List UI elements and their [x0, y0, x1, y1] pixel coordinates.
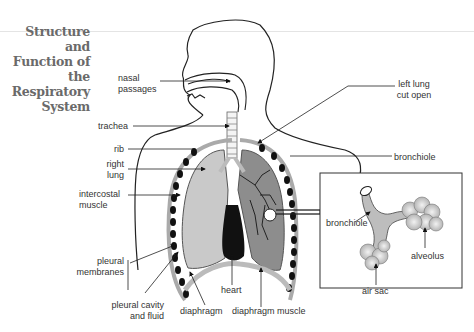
label-diaphragm: diaphragm: [180, 306, 223, 317]
trachea-drawing: [227, 112, 237, 158]
inset-label-bronchiole: bronchiole: [326, 218, 368, 229]
label-rib: rib: [100, 144, 124, 155]
label-nasal-passages: nasal passages: [118, 73, 157, 95]
nasal-passages-drawing: [185, 73, 246, 112]
label-pleural-membranes: pleural membranes: [76, 256, 124, 278]
inset-box: [320, 173, 462, 288]
respiratory-diagram: [0, 0, 474, 332]
label-bronchiole: bronchiole: [394, 152, 436, 163]
label-trachea: trachea: [94, 121, 128, 132]
heart-drawing: [222, 205, 244, 261]
label-right-lung: right lung: [96, 159, 124, 181]
label-intercostal-muscle: intercostal muscle: [79, 189, 120, 211]
label-left-lung: left lung cut open: [392, 79, 436, 101]
label-heart: heart: [221, 285, 242, 296]
inset-label-alveolus: alveolus: [411, 251, 444, 262]
magnify-circle: [264, 209, 276, 221]
label-pleural-cavity: pleural cavity and fluid: [108, 300, 164, 322]
label-diaphragm-muscle: diaphragm muscle: [232, 306, 306, 317]
inset-label-air-sac: air sac: [362, 286, 389, 297]
